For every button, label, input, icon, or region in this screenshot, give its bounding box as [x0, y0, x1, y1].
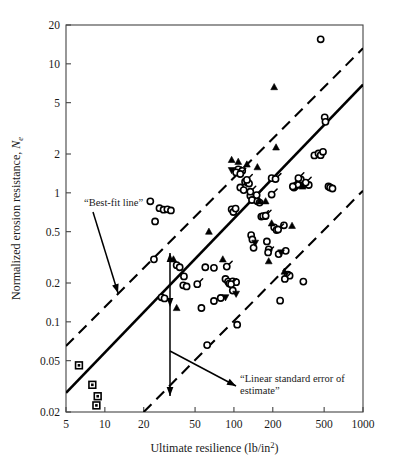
y-tick-label: 0.05 — [40, 355, 60, 367]
data-point-triangle-up — [262, 198, 269, 204]
data-point-triangle-up — [219, 256, 226, 262]
y-tick-label: 1 — [54, 187, 60, 199]
data-point-circle-open — [318, 36, 324, 42]
x-tick-label: 50 — [189, 418, 201, 430]
best-fit-line — [66, 85, 363, 393]
data-point-circle-open — [211, 265, 217, 271]
y-tick-label: 0.1 — [46, 316, 61, 328]
data-point-circle-open — [184, 283, 190, 289]
data-point-circle-tail — [254, 190, 263, 198]
x-tick-label: 20 — [138, 418, 150, 430]
data-point-circle-open — [211, 298, 217, 304]
x-tick-label: 10 — [99, 418, 111, 430]
data-point-circle-open — [329, 185, 335, 191]
data-point-circle-open — [177, 264, 183, 270]
erosion-resistance-scatter-chart: 510205010020050010000.020.050.10.20.5125… — [0, 0, 398, 474]
data-point-triangle-up — [173, 304, 180, 310]
data-point-circle-open — [181, 273, 187, 279]
linear-standard-error-label-line1: “Linear standard error of — [240, 373, 345, 384]
plot-area-border — [66, 25, 363, 412]
linear-standard-error-label-line2: estimate” — [240, 385, 280, 396]
data-point-triangle-up — [206, 228, 213, 234]
chart-text-group: 510205010020050010000.020.050.10.20.5125… — [9, 19, 375, 455]
data-point-square-dot — [89, 381, 96, 388]
y-tick-label: 0.5 — [46, 226, 61, 238]
x-tick-label: 1000 — [352, 418, 375, 430]
data-point-circle-tail — [269, 189, 278, 198]
data-point-triangle-up — [228, 156, 235, 162]
data-point-circle-open — [202, 264, 208, 270]
x-tick-label: 100 — [225, 418, 243, 430]
data-point-triangle-up — [265, 258, 272, 264]
data-point-triangle-up — [268, 220, 275, 226]
best-fit-line-label: “Best-fit line” — [84, 197, 144, 208]
plot-frame-group — [66, 25, 363, 412]
standard-error-leader-line — [170, 351, 236, 386]
data-point-circle-tail — [194, 279, 203, 288]
data-point-triangle-down — [233, 291, 240, 297]
y-axis-title-base: Normalized erosion resistance, — [9, 149, 23, 300]
data-point-triangle-up — [271, 84, 278, 90]
best-fit-arrowhead — [112, 283, 118, 293]
y-axis-title: Normalized erosion resistance, Ne — [9, 137, 25, 300]
data-point-square-dot — [94, 393, 101, 400]
data-point-circle-open — [264, 238, 270, 244]
x-tick-label: 500 — [316, 418, 334, 430]
data-point-circle-open — [151, 256, 157, 262]
data-point-triangle-up — [289, 222, 296, 228]
y-tick-label: 0.2 — [46, 277, 61, 289]
data-point-circle-open — [147, 198, 153, 204]
data-point-circle-open — [204, 342, 210, 348]
data-point-circle-open — [232, 205, 238, 211]
data-point-triangle-up — [254, 164, 261, 170]
series-open-circle-markers — [147, 36, 335, 348]
data-point-square-dot — [93, 402, 100, 409]
chart-canvas: 510205010020050010000.020.050.10.20.5125… — [0, 0, 398, 474]
data-point-circle-open — [320, 149, 326, 155]
x-axis-title: Ultimate resilience (lb/in2) — [150, 440, 278, 455]
data-point-circle-open — [161, 295, 167, 301]
data-point-circle-open — [198, 305, 204, 311]
y-tick-label: 2 — [54, 148, 60, 160]
data-point-circle-tail — [224, 261, 233, 270]
best-fit-leader-line — [93, 212, 118, 293]
data-points-group — [76, 36, 336, 409]
data-point-circle-open — [168, 207, 174, 213]
y-tick-label: 10 — [49, 58, 61, 70]
y-tick-label: 20 — [49, 19, 61, 31]
standard-error-arrowhead-mid — [167, 298, 174, 307]
standard-error-arrowhead-down — [167, 387, 174, 396]
data-point-circle-open — [234, 322, 240, 328]
trend-lines-group — [66, 48, 363, 412]
x-axis-title-close: ) — [275, 441, 279, 455]
data-point-circle-open — [322, 119, 328, 125]
y-axis-title-subscript: e — [15, 137, 25, 141]
standard-error-text-arrowhead — [226, 379, 236, 386]
x-axis-title-base: Ultimate resilience (lb/in — [150, 441, 270, 455]
x-tick-label: 5 — [63, 418, 69, 430]
data-point-triangle-up — [235, 158, 242, 164]
y-tick-label: 0.02 — [40, 406, 60, 418]
data-point-circle-open — [152, 218, 158, 224]
data-point-circle-open — [300, 279, 306, 285]
tick-marks-group — [66, 25, 363, 412]
y-tick-label: 5 — [54, 97, 60, 109]
x-tick-label: 200 — [264, 418, 282, 430]
data-point-triangle-up — [273, 144, 280, 150]
data-point-circle-open — [277, 298, 283, 304]
data-point-circle-open — [241, 187, 247, 193]
data-point-square-dot — [76, 362, 83, 369]
